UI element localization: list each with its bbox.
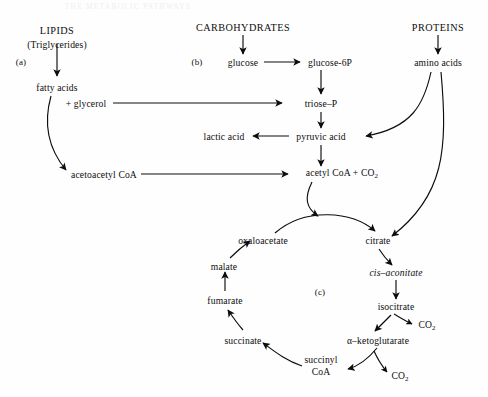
co2-isocitrate-subscript: 2 bbox=[432, 324, 436, 331]
arrow-citrate-to-cis-aconitate bbox=[379, 249, 392, 265]
metabolic-pathway-diagram: THE METABOLIC PATHWAYS LIPIDS (Triglycer… bbox=[0, 0, 488, 397]
node-malate: malate bbox=[211, 261, 237, 272]
node-oxaloacetate: oxaloacetate bbox=[238, 235, 288, 246]
arrow-amino-acids-to-citrate bbox=[392, 72, 444, 236]
heading-lipids: LIPIDS bbox=[40, 25, 74, 36]
node-alpha-ketoglutarate: α–ketoglutarate bbox=[347, 335, 409, 346]
arrow-isocitrate-to-ketoglutarate bbox=[375, 315, 391, 331]
node-fumarate: fumarate bbox=[207, 295, 242, 306]
node-amino-acids: amino acids bbox=[414, 57, 462, 68]
node-citrate: citrate bbox=[365, 235, 390, 246]
node-glycerol: + glycerol bbox=[66, 98, 107, 109]
node-succinyl-coa-line2: CoA bbox=[312, 366, 331, 377]
node-fatty-acids: fatty acids bbox=[36, 82, 77, 93]
arrow-ketoglutarate-to-succinyl bbox=[348, 348, 377, 369]
node-acetyl-coa-text: acetyl CoA + CO bbox=[306, 167, 375, 178]
node-glucose-6p: glucose-6P bbox=[308, 57, 352, 68]
arrow-succinyl-to-succinate bbox=[263, 343, 302, 366]
section-tag-c: (c) bbox=[315, 287, 325, 298]
node-glucose: glucose bbox=[228, 57, 258, 68]
arrow-isocitrate-to-co2 bbox=[394, 314, 412, 324]
page-running-head: THE METABOLIC PATHWAYS bbox=[65, 2, 192, 11]
heading-lipids-subtitle: (Triglycerides) bbox=[27, 39, 86, 50]
node-triose-p: triose–P bbox=[305, 98, 338, 109]
node-co2-from-isocitrate: CO2 bbox=[418, 319, 435, 333]
node-isocitrate: isocitrate bbox=[378, 301, 415, 312]
arrow-fatty-acids-to-acetoacetyl bbox=[47, 96, 66, 170]
node-succinyl-coa-line1: succinyl bbox=[304, 354, 337, 365]
section-tag-b: (b) bbox=[192, 57, 203, 68]
co2-ketoglutarate-subscript: 2 bbox=[405, 375, 409, 382]
node-cis-aconitate: cis–aconitate bbox=[369, 267, 422, 278]
arrow-acetyl-into-cycle bbox=[307, 182, 318, 216]
node-acetoacetyl-coa: acetoacetyl CoA bbox=[71, 169, 137, 180]
node-acetyl-coa: acetyl CoA + CO2 bbox=[306, 167, 378, 181]
node-co2-from-ketoglutarate: CO2 bbox=[391, 370, 408, 384]
node-lactic-acid: lactic acid bbox=[204, 131, 245, 142]
arrow-succinate-to-fumarate bbox=[228, 310, 243, 330]
node-acetyl-coa-subscript: 2 bbox=[375, 172, 379, 179]
heading-carbohydrates: CARBOHYDRATES bbox=[196, 22, 290, 33]
node-succinate: succinate bbox=[224, 335, 261, 346]
heading-proteins: PROTEINS bbox=[412, 22, 464, 33]
node-pyruvic-acid: pyruvic acid bbox=[296, 131, 345, 142]
arrow-amino-acids-to-pyruvic bbox=[366, 72, 431, 136]
co2-isocitrate-text: CO bbox=[418, 319, 432, 330]
co2-ketoglutarate-text: CO bbox=[391, 370, 405, 381]
node-succinyl-coa: succinyl CoA bbox=[304, 354, 337, 378]
arrow-oxaloacetate-to-citrate bbox=[275, 215, 375, 233]
arrow-ketoglutarate-to-co2 bbox=[374, 351, 387, 372]
section-tag-a: (a) bbox=[16, 57, 26, 68]
